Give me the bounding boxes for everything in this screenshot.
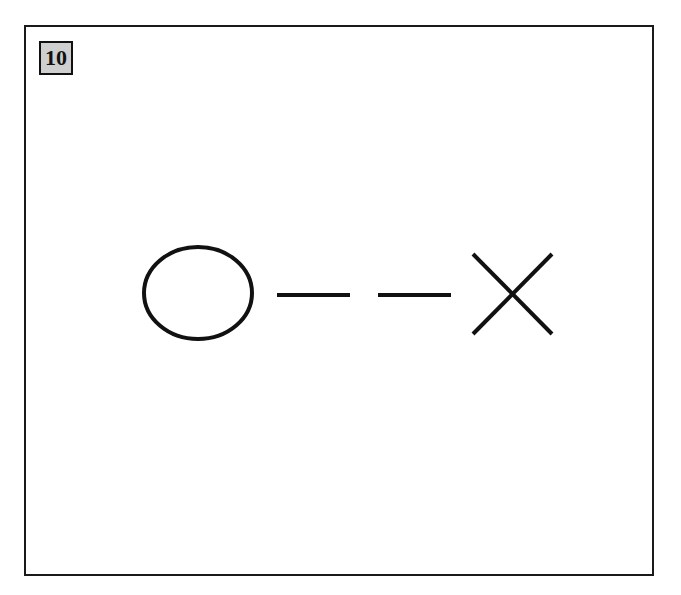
circle-shape-icon bbox=[144, 247, 252, 339]
cross-shape-icon bbox=[473, 254, 552, 334]
sequence-diagram bbox=[0, 0, 681, 595]
